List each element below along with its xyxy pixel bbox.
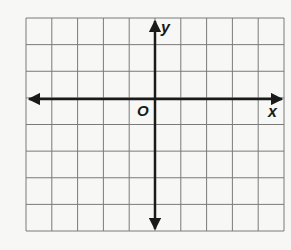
y-axis-label: y (160, 19, 171, 36)
origin-label: O (137, 102, 149, 119)
coordinate-plane: y x O (0, 0, 291, 250)
x-axis-label: x (267, 103, 278, 120)
